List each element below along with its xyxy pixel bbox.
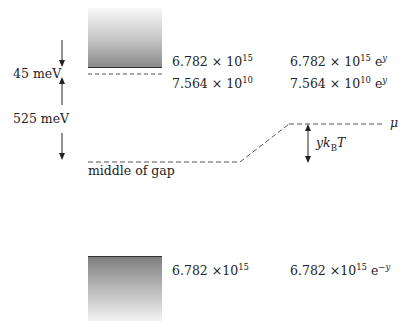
- arrow-down-icon: [59, 153, 65, 160]
- shift-label: ykBT: [316, 137, 345, 152]
- arrow-up-icon: [305, 124, 311, 131]
- arrow-down-icon: [305, 156, 311, 163]
- midgap-energy-label: 525 meV: [13, 113, 69, 126]
- valence-density-scaled: 6.782 ×1015 e−y: [290, 263, 390, 278]
- valence-density: 6.782 ×1015: [172, 263, 249, 278]
- mu-slope-line: [240, 124, 289, 162]
- conduction-density: 6.782 × 1015: [172, 54, 253, 69]
- diagram-lines: [0, 0, 417, 333]
- midgap-label: middle of gap: [88, 165, 175, 178]
- chemical-potential-label: μ: [390, 117, 398, 130]
- energy-band-diagram: 45 meV 525 meV 6.782 × 1015 6.782 × 1015…: [0, 0, 417, 333]
- conduction-density-scaled: 6.782 × 1015 ey: [290, 54, 387, 69]
- donor-density-scaled: 7.564 × 1010 ey: [290, 76, 387, 91]
- donor-gap-energy-label: 45 meV: [13, 68, 61, 81]
- donor-density: 7.564 × 1010: [172, 76, 253, 91]
